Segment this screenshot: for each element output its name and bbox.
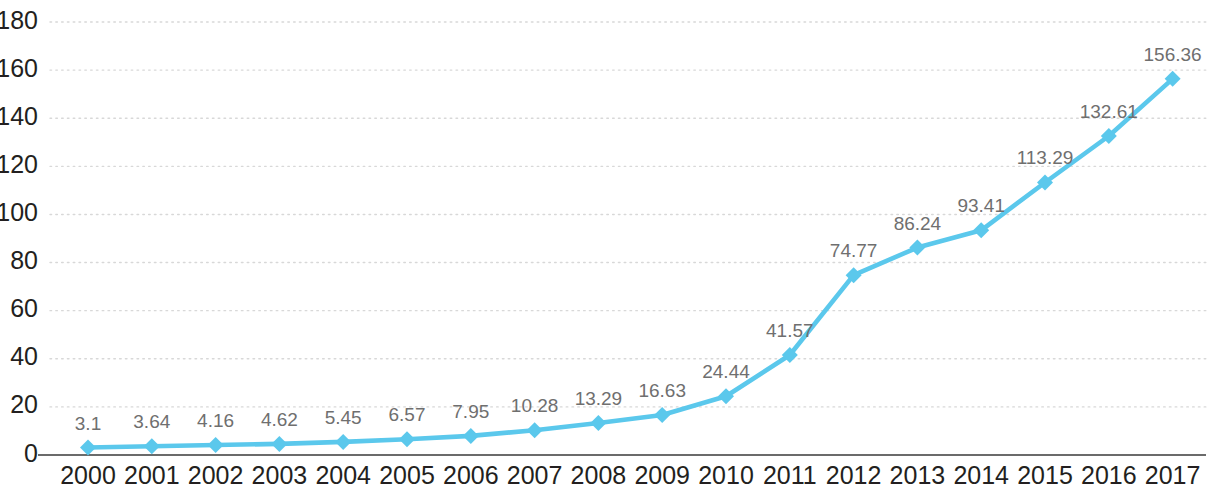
data-label-2013: 86.24: [894, 213, 942, 234]
x-tick-label-2010: 2010: [698, 461, 754, 489]
data-label-2011: 41.57: [766, 320, 814, 341]
y-tick-label-180: 180: [0, 6, 38, 34]
x-tick-label-2013: 2013: [890, 461, 946, 489]
y-tick-label-60: 60: [10, 294, 38, 322]
data-label-2014: 93.41: [957, 195, 1005, 216]
x-tick-label-2008: 2008: [571, 461, 627, 489]
data-label-2006: 7.95: [452, 401, 489, 422]
y-tick-label-0: 0: [24, 439, 38, 467]
x-tick-label-2001: 2001: [124, 461, 180, 489]
data-label-2003: 4.62: [261, 409, 298, 430]
data-label-2005: 6.57: [389, 404, 426, 425]
x-tick-label-2014: 2014: [953, 461, 1009, 489]
data-label-2009: 16.63: [638, 380, 686, 401]
x-tick-label-2002: 2002: [188, 461, 244, 489]
data-label-2007: 10.28: [511, 395, 559, 416]
data-label-2001: 3.64: [133, 411, 170, 432]
y-tick-label-160: 160: [0, 54, 38, 82]
y-tick-label-40: 40: [10, 342, 38, 370]
data-label-2000: 3.1: [75, 413, 101, 434]
data-label-2008: 13.29: [575, 388, 623, 409]
data-label-2010: 24.44: [702, 361, 750, 382]
y-tick-label-100: 100: [0, 198, 38, 226]
y-tick-label-20: 20: [10, 390, 38, 418]
x-tick-label-2009: 2009: [634, 461, 690, 489]
y-tick-label-140: 140: [0, 102, 38, 130]
x-tick-label-2004: 2004: [315, 461, 371, 489]
y-tick-label-80: 80: [10, 246, 38, 274]
x-tick-label-2016: 2016: [1081, 461, 1137, 489]
y-tick-label-120: 120: [0, 150, 38, 178]
data-label-2016: 132.61: [1080, 101, 1138, 122]
x-tick-label-2005: 2005: [379, 461, 435, 489]
x-tick-label-2007: 2007: [507, 461, 563, 489]
chart-canvas: 020406080100120140160180 200020012002200…: [0, 0, 1214, 498]
data-label-2004: 5.45: [325, 407, 362, 428]
data-label-2017: 156.36: [1144, 44, 1202, 65]
x-tick-label-2012: 2012: [826, 461, 882, 489]
x-tick-label-2015: 2015: [1017, 461, 1073, 489]
data-label-2015: 113.29: [1017, 147, 1074, 168]
x-tick-label-2011: 2011: [763, 461, 817, 489]
data-label-2012: 74.77: [830, 240, 878, 261]
x-tick-label-2017: 2017: [1145, 461, 1201, 489]
x-tick-label-2006: 2006: [443, 461, 499, 489]
x-tick-label-2000: 2000: [60, 461, 116, 489]
x-tick-label-2003: 2003: [252, 461, 308, 489]
line-chart: 020406080100120140160180 200020012002200…: [0, 0, 1214, 498]
data-label-2002: 4.16: [197, 410, 234, 431]
